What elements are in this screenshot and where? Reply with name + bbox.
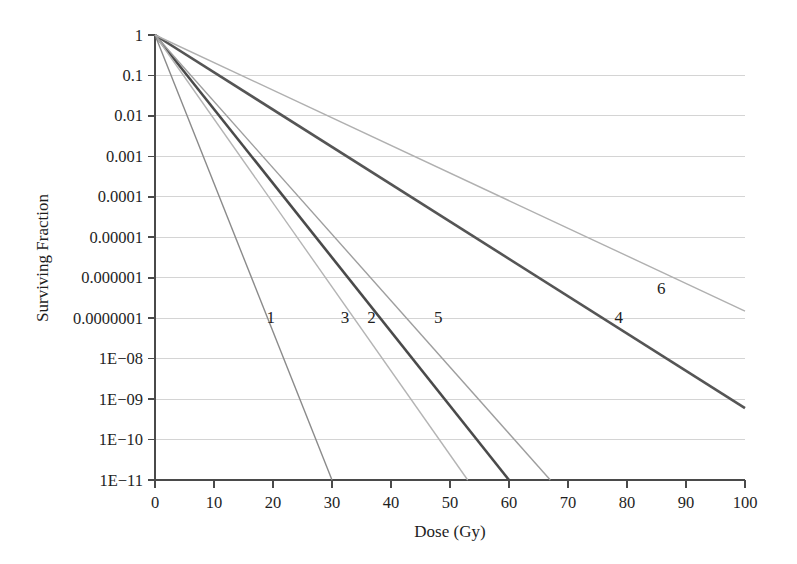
x-tick-label: 60 — [501, 493, 518, 512]
series-line-3 — [155, 35, 468, 480]
x-tick-label: 10 — [206, 493, 223, 512]
y-tick-label: 0.01 — [114, 106, 143, 125]
y-tick-label: 1 — [135, 26, 143, 45]
y-tick-label: 0.1 — [122, 66, 143, 85]
y-tick-label: 1E−09 — [99, 390, 143, 409]
y-tick-label: 1E−11 — [99, 471, 143, 490]
survival-curve-figure: 10.10.010.0010.00010.000010.0000010.0000… — [0, 0, 797, 564]
y-tick-label: 0.0000001 — [73, 309, 143, 328]
y-tick-label: 1E−08 — [99, 349, 143, 368]
series-label-2: 2 — [367, 308, 376, 327]
series-line-1 — [155, 35, 332, 480]
x-tick-label: 30 — [324, 493, 341, 512]
x-tick-label: 90 — [678, 493, 695, 512]
y-tick-label: 0.001 — [106, 147, 143, 166]
x-tick-label: 70 — [560, 493, 577, 512]
x-tick-label: 0 — [151, 493, 159, 512]
y-tick-labels-group: 10.10.010.0010.00010.000010.0000010.0000… — [73, 26, 143, 490]
chart-svg: 10.10.010.0010.00010.000010.0000010.0000… — [0, 0, 797, 564]
x-axis-title: Dose (Gy) — [414, 522, 485, 541]
series-label-3: 3 — [341, 308, 350, 327]
series-line-4 — [155, 35, 745, 408]
series-label-5: 5 — [434, 308, 443, 327]
data-series-group — [155, 35, 745, 480]
y-tick-label: 0.000001 — [81, 268, 143, 287]
series-line-6 — [155, 35, 745, 311]
series-label-6: 6 — [657, 279, 666, 298]
y-axis-title: Surviving Fraction — [33, 194, 52, 322]
gridlines-group — [155, 75, 745, 480]
series-line-2 — [155, 35, 509, 480]
x-tick-label: 80 — [619, 493, 636, 512]
series-label-1: 1 — [266, 308, 275, 327]
x-tick-label: 40 — [383, 493, 400, 512]
y-tick-label: 1E−10 — [99, 430, 143, 449]
x-tick-label: 20 — [265, 493, 282, 512]
series-line-5 — [155, 35, 550, 480]
y-tick-label: 0.00001 — [89, 228, 143, 247]
x-tick-label: 50 — [442, 493, 459, 512]
x-tick-label: 100 — [733, 493, 758, 512]
y-tick-label: 0.0001 — [98, 187, 143, 206]
series-label-4: 4 — [614, 308, 623, 327]
tick-marks-group — [148, 35, 745, 488]
x-tick-labels-group: 0102030405060708090100 — [151, 493, 758, 512]
